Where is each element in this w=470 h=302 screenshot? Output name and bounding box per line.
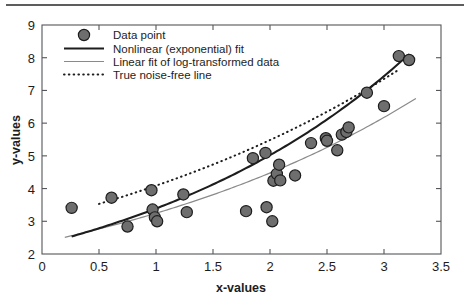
page-separator-rule xyxy=(6,4,464,6)
y-axis-title: y-values xyxy=(9,115,23,165)
y-tick-label: 6 xyxy=(28,116,35,131)
x-tick-label: 3 xyxy=(380,259,387,274)
y-tick-label: 9 xyxy=(28,18,35,33)
data-point xyxy=(321,135,332,146)
data-point xyxy=(267,216,278,227)
y-tick-label: 4 xyxy=(28,182,35,197)
data-point xyxy=(152,216,163,227)
x-tick-label: 1.5 xyxy=(204,259,222,274)
x-tick-label: 3.5 xyxy=(432,259,450,274)
x-tick-label: 2.5 xyxy=(318,259,336,274)
data-point xyxy=(247,153,258,164)
data-point xyxy=(146,185,157,196)
data-point xyxy=(106,192,117,203)
legend-label-data-point: Data point xyxy=(113,29,166,41)
data-point xyxy=(261,202,272,213)
scatter-plot: 00.511.522.533.5 23456789 x-values y-val… xyxy=(0,0,470,302)
data-point xyxy=(274,159,285,170)
legend-label-linear-log-fit: Linear fit of log-transformed data xyxy=(113,56,280,68)
data-point xyxy=(66,202,77,213)
data-point xyxy=(181,207,192,218)
data-point xyxy=(332,145,343,156)
x-tick-label: 2 xyxy=(266,259,273,274)
data-point xyxy=(260,147,271,158)
x-tick-label: 1 xyxy=(152,259,159,274)
y-tick-label: 2 xyxy=(28,247,35,262)
data-point xyxy=(240,206,251,217)
data-point xyxy=(305,138,316,149)
y-tick-label: 8 xyxy=(28,51,35,66)
x-axis-tick-labels: 00.511.522.533.5 xyxy=(38,259,450,274)
legend-label-true-line: True noise-free line xyxy=(113,69,212,81)
x-tick-label: 0 xyxy=(38,259,45,274)
legend-label-nonlinear-fit: Nonlinear (exponential) fit xyxy=(113,43,245,55)
data-point xyxy=(178,189,189,200)
data-point xyxy=(343,122,354,133)
x-axis-title: x-values xyxy=(216,281,266,295)
data-point xyxy=(361,87,372,98)
x-tick-label: 0.5 xyxy=(90,259,108,274)
data-point xyxy=(122,221,133,232)
data-point xyxy=(378,101,389,112)
data-point xyxy=(403,54,414,65)
data-point xyxy=(275,175,286,186)
y-tick-label: 3 xyxy=(28,214,35,229)
y-axis-tick-labels: 23456789 xyxy=(28,18,35,262)
y-tick-label: 5 xyxy=(28,149,35,164)
data-point xyxy=(393,50,404,61)
figure-container: 00.511.522.533.5 23456789 x-values y-val… xyxy=(0,0,470,302)
y-tick-label: 7 xyxy=(28,83,35,98)
data-point xyxy=(289,170,300,181)
legend-data-point-icon xyxy=(78,29,89,40)
